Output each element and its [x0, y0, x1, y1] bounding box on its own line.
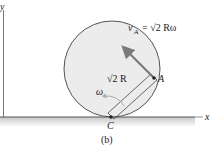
- svg-text:= √2 Rω: = √2 Rω: [142, 22, 177, 33]
- y-axis-label: y: [0, 1, 5, 12]
- ground-hatching: [0, 117, 195, 127]
- caption: (b): [101, 134, 113, 146]
- point-a-label: A: [157, 73, 165, 84]
- point-c-label: C: [107, 120, 114, 131]
- rolling-disk-diagram: y x A C v A = √2 Rω √2 R ω (b): [0, 0, 220, 148]
- svg-text:A: A: [133, 28, 139, 36]
- omega-label: ω: [96, 86, 103, 97]
- point-a-dot: [152, 76, 156, 80]
- velocity-label: v A = √2 Rω: [128, 22, 177, 36]
- point-c-dot: [109, 115, 113, 119]
- radius-label: √2 R: [107, 73, 127, 84]
- svg-text:v: v: [128, 22, 133, 33]
- x-axis-label: x: [204, 111, 210, 122]
